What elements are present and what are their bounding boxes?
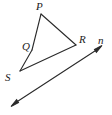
geometry-figure: P Q R n S (0, 0, 112, 115)
segment-rp (41, 14, 76, 45)
line-n-arrowhead-end (95, 46, 103, 53)
vertex-label-q: Q (22, 41, 30, 52)
geometry-canvas (0, 0, 112, 115)
vertex-label-p: P (36, 1, 43, 12)
vertex-label-s: S (5, 72, 11, 83)
line-n-shaft (14, 48, 100, 104)
line-label-n: n (98, 35, 104, 46)
segment-pq (32, 14, 41, 50)
vertex-label-r: R (79, 34, 86, 45)
line-n-arrowhead-start (11, 100, 19, 107)
